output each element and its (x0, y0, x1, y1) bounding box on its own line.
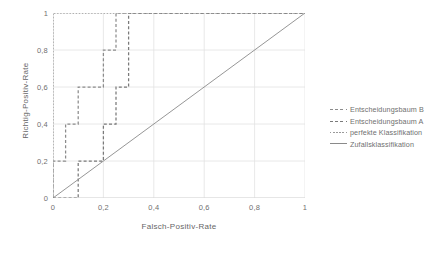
legend-item-label: Entscheidungsbaum A (350, 117, 423, 126)
y-tick-label: 1 (31, 9, 48, 18)
legend-item[interactable]: perfekte Klassifikation (330, 127, 424, 139)
series-line-3 (53, 13, 305, 198)
y-tick-label: 0 (31, 194, 48, 203)
roc-chart-figure: 00,20,40,60,81 00,20,40,60,81 Falsch-Pos… (0, 0, 437, 253)
y-axis-title: Richtig-Positiv-Rate (21, 26, 30, 176)
legend-item-label: perfekte Klassifikation (350, 128, 422, 137)
plot-area (53, 13, 305, 198)
y-tick-label: 0,8 (31, 46, 48, 55)
y-tick-label: 0,2 (31, 157, 48, 166)
x-axis-title: Falsch-Positiv-Rate (53, 222, 305, 231)
legend-line-swatch (330, 121, 347, 122)
legend-line-swatch (330, 143, 347, 145)
legend-line-swatch (330, 109, 347, 110)
legend-item[interactable]: Zufallsklassifikation (330, 139, 424, 151)
x-tick-label: 0,4 (148, 203, 159, 212)
x-tick-label: 0,2 (98, 203, 109, 212)
legend-item[interactable]: Entscheidungsbaum A (330, 116, 424, 128)
legend-item-label: Entscheidungsbaum B (350, 105, 424, 114)
y-tick-label: 0,4 (31, 120, 48, 129)
x-tick-label: 0,6 (199, 203, 210, 212)
chart-legend: Entscheidungsbaum BEntscheidungsbaum Ape… (330, 104, 424, 150)
y-tick-label: 0,6 (31, 83, 48, 92)
x-tick-label: 1 (303, 203, 307, 212)
legend-item-label: Zufallsklassifikation (350, 140, 414, 149)
x-tick-label: 0 (51, 203, 55, 212)
chart-canvas (53, 13, 305, 198)
legend-line-swatch (330, 132, 347, 133)
legend-item[interactable]: Entscheidungsbaum B (330, 104, 424, 116)
x-tick-label: 0,8 (249, 203, 260, 212)
